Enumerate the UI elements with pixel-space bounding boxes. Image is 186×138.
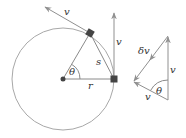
label-chord-s: s [96,56,101,67]
radius-line-angled [63,33,90,79]
center-point [61,77,66,82]
label-delta-v: δv [138,45,150,56]
label-tangent-v: v [64,6,70,17]
label-triangle-vertical-v: v [170,64,176,75]
triangle-bottom-v [134,82,168,100]
chord-line [90,33,114,79]
diagram-canvas: v v s θ r δv v v θ [0,0,186,138]
label-theta-right: θ [156,85,162,96]
velocity-triangle: δv v v θ [134,36,176,102]
delta-v-midarrow [150,56,153,60]
circular-motion-diagram: v v s θ r δv v v θ [0,0,186,138]
particle-position-a [85,28,95,38]
label-vertical-v: v [116,36,122,47]
left-figure: v v s θ r [12,6,122,130]
particle-position-b [111,76,118,83]
label-triangle-bottom-v: v [145,91,151,102]
label-radius-r: r [88,80,94,91]
label-theta-left: θ [69,66,75,77]
